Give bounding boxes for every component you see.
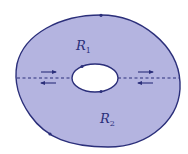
inner-orientation-mark-top	[81, 65, 84, 68]
outer-orientation-mark-top	[99, 14, 102, 17]
inner-hole-boundary	[72, 64, 118, 92]
annular-region-diagram: R1 R2	[0, 0, 188, 154]
inner-orientation-mark-bottom	[100, 90, 103, 93]
outer-orientation-mark-bottom-left	[48, 132, 51, 135]
